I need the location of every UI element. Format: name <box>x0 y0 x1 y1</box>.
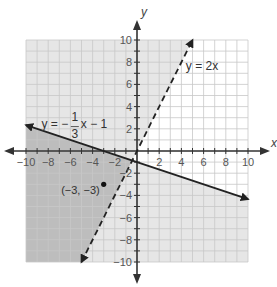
x-tick-label: −6 <box>64 156 77 168</box>
point-label: (−3, −3) <box>61 184 100 196</box>
equation-label-y-2x: y = 2x <box>186 59 218 73</box>
x-tick-label: −10 <box>17 156 36 168</box>
x-tick-label: 8 <box>223 156 229 168</box>
y-tick-label: 4 <box>126 101 132 113</box>
y-axis-label: y <box>140 5 148 19</box>
x-axis-label: x <box>270 136 277 150</box>
y-tick-label: −4 <box>119 189 132 201</box>
equation-lhs: y = − <box>42 117 69 131</box>
x-tick-label: −8 <box>42 156 55 168</box>
y-tick-label: −8 <box>119 234 132 246</box>
x-axis-left-arrow <box>4 147 14 155</box>
x-tick-label: −2 <box>109 156 122 168</box>
point-marker <box>101 182 106 187</box>
x-axis-right-arrow <box>260 147 270 155</box>
x-tick-label: 2 <box>156 156 162 168</box>
fraction-denominator: 3 <box>71 127 78 141</box>
y-axis-top-arrow <box>133 20 141 30</box>
y-tick-label: −10 <box>113 256 132 268</box>
x-tick-label: 6 <box>201 156 207 168</box>
y-tick-label: 8 <box>126 56 132 68</box>
y-tick-label: −6 <box>119 212 132 224</box>
x-tick-label: 4 <box>178 156 184 168</box>
x-tick-label: 10 <box>242 156 254 168</box>
y-tick-label: −2 <box>119 167 132 179</box>
x-tick-label: −4 <box>86 156 99 168</box>
chart: −10−8−6−4−2246810108642−2−4−6−8−10xyy = … <box>0 0 277 287</box>
y-tick-label: 6 <box>126 78 132 90</box>
y-axis-bottom-arrow <box>133 274 141 284</box>
y-tick-label: 10 <box>120 34 132 46</box>
fraction-numerator: 1 <box>71 110 78 124</box>
equation-rhs: x − 1 <box>81 117 108 131</box>
y-tick-label: 2 <box>126 123 132 135</box>
